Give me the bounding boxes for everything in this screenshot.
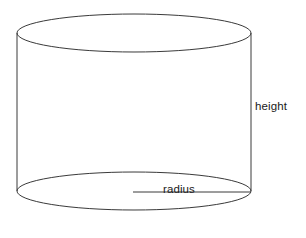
cylinder-bottom-ellipse (17, 172, 251, 210)
cylinder-figure: height radius (0, 0, 306, 238)
height-label: height (255, 100, 287, 113)
cylinder-drawing (0, 0, 306, 238)
radius-label: radius (163, 183, 195, 196)
cylinder-top-ellipse (17, 14, 251, 52)
